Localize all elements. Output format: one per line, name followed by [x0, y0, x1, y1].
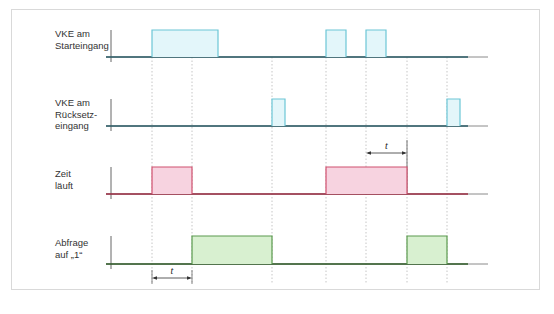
pulse-fill [272, 99, 285, 126]
pulse-fill [152, 30, 218, 57]
pulse-fill [192, 236, 272, 264]
pulse-fill [326, 167, 407, 194]
pulse-fill [366, 30, 386, 57]
dimension-label: t [385, 140, 388, 151]
arrow-right-icon [187, 276, 192, 280]
dimension-label: t [171, 265, 174, 276]
pulse-fill [407, 236, 447, 264]
timing-chart: tt [0, 0, 554, 314]
pulse-fill [152, 167, 192, 194]
arrow-left-icon [366, 151, 371, 155]
arrow-right-icon [402, 151, 407, 155]
pulse-fill [447, 99, 460, 126]
pulse-fill [326, 30, 346, 57]
arrow-left-icon [152, 276, 157, 280]
